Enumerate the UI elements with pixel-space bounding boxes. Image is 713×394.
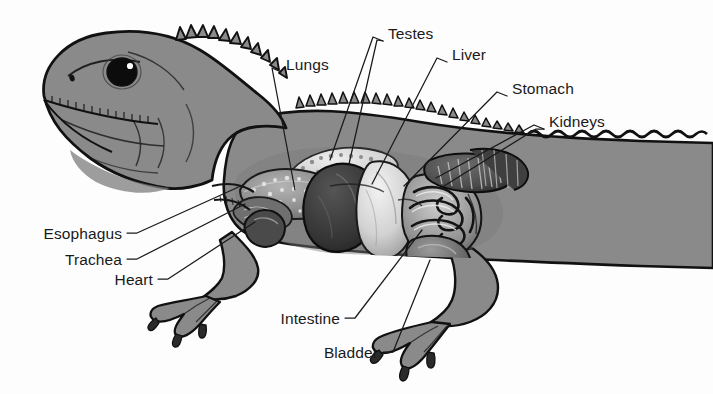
front-leg-limb (202, 232, 258, 299)
front-claw-3 (199, 324, 207, 338)
anatomy-figure: TestesLungsLiverStomachKidneysEsophagusT… (0, 0, 713, 394)
eye-highlight (127, 63, 133, 69)
label-heart: Heart (115, 272, 153, 288)
label-esophagus: Esophagus (44, 226, 122, 242)
front-foot (151, 296, 220, 337)
reptile-illustration (0, 0, 713, 394)
front-claw-1 (148, 318, 159, 331)
label-intestine: Intestine (281, 311, 341, 327)
front-leg (148, 232, 258, 347)
label-kidneys: Kidneys (549, 114, 605, 130)
hind-claw-3 (427, 352, 435, 368)
label-testes: Testes (388, 26, 433, 42)
label-bladder: Bladder (324, 345, 378, 361)
label-stomach: Stomach (512, 81, 574, 97)
hind-foot (373, 322, 450, 369)
label-trachea: Trachea (65, 252, 122, 268)
hind-claw-2 (400, 366, 409, 381)
hind-leg (370, 248, 498, 381)
label-lungs: Lungs (286, 57, 329, 73)
label-liver: Liver (452, 47, 486, 63)
eye (107, 58, 137, 86)
front-claw-2 (172, 334, 182, 347)
organ-heart (245, 210, 285, 247)
